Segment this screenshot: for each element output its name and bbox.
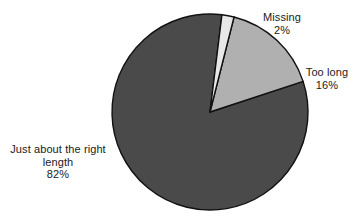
pie-label-missing-name: Missing — [243, 11, 321, 24]
pie-label-too-long-name: Too long — [296, 66, 358, 79]
pie-chart-figure: Missing 2% Too long 16% Just about the r… — [0, 0, 358, 222]
pie-label-right-length: Just about the right length 82% — [2, 143, 114, 181]
pie-label-missing: Missing 2% — [243, 11, 321, 36]
pie-label-right-length-name: Just about the right length — [2, 143, 114, 168]
pie-label-right-length-value: 82% — [2, 168, 114, 181]
pie-label-too-long: Too long 16% — [296, 66, 358, 91]
pie-slices — [112, 14, 308, 210]
pie-label-missing-value: 2% — [243, 24, 321, 37]
pie-label-too-long-value: 16% — [296, 79, 358, 92]
